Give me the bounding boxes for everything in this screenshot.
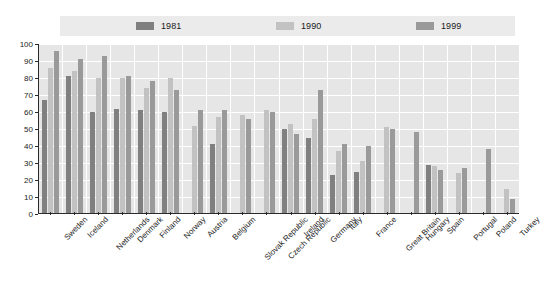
bar-group	[303, 44, 327, 214]
y-tick-mark	[35, 112, 38, 113]
bar-1999	[414, 132, 419, 214]
y-tick-label: 50	[24, 125, 33, 134]
x-tick-mark	[459, 212, 460, 215]
bar-group	[206, 44, 230, 214]
x-tick-label: Norway	[182, 215, 208, 241]
x-tick-mark	[122, 212, 123, 215]
x-tick-mark	[291, 212, 292, 215]
bar-group	[327, 44, 351, 214]
y-tick-mark	[35, 146, 38, 147]
bar-1981	[138, 110, 143, 214]
bar-1999	[486, 149, 491, 214]
x-tick-label: Turkey	[518, 215, 541, 238]
bar-group	[230, 44, 254, 214]
y-tick-mark	[35, 78, 38, 79]
x-tick-label: Czech Republic	[287, 215, 333, 261]
bar-1999	[126, 76, 131, 214]
x-axis-line	[38, 213, 519, 214]
bar-1990	[48, 68, 53, 214]
y-tick-mark	[35, 44, 38, 45]
legend-label-1981: 1981	[161, 21, 181, 31]
x-tick-label: Iceland	[86, 215, 111, 240]
bar-1999	[462, 168, 467, 214]
bar-1990	[168, 78, 173, 214]
x-tick-mark	[266, 212, 267, 215]
bar-1999	[222, 110, 227, 214]
x-tick-mark	[194, 212, 195, 215]
y-tick-label: 20	[24, 176, 33, 185]
bar-1990	[384, 127, 389, 214]
bar-group	[471, 44, 495, 214]
bar-group	[278, 44, 302, 214]
bar-1981	[354, 172, 359, 215]
x-tick-label: Austria	[206, 215, 230, 239]
bar-1999	[318, 90, 323, 214]
bar-1981	[282, 129, 287, 214]
bar-group	[495, 44, 519, 214]
bar-group	[351, 44, 375, 214]
bar-1990	[120, 78, 125, 214]
bar-group	[62, 44, 86, 214]
bar-1990	[96, 78, 101, 214]
bar-1990	[264, 110, 269, 214]
y-tick-mark	[35, 163, 38, 164]
bar-1990	[216, 117, 221, 214]
x-tick-mark	[242, 212, 243, 215]
y-tick-mark	[35, 197, 38, 198]
bar-1990	[288, 124, 293, 214]
y-tick-label: 40	[24, 142, 33, 151]
bar-1999	[366, 146, 371, 214]
legend-swatch-1981	[136, 22, 154, 30]
chart-legend: 1981 1990 1999	[60, 16, 515, 36]
x-tick-mark	[483, 212, 484, 215]
bar-1981	[42, 100, 47, 214]
bar-group	[254, 44, 278, 214]
bar-group	[158, 44, 182, 214]
y-tick-label: 0	[29, 210, 33, 219]
x-tick-mark	[387, 212, 388, 215]
x-tick-mark	[50, 212, 51, 215]
bar-group	[134, 44, 158, 214]
x-tick-label: Poland	[494, 215, 518, 239]
x-tick-mark	[146, 212, 147, 215]
bar-1999	[102, 56, 107, 214]
bar-1999	[54, 51, 59, 214]
bar-1981	[306, 138, 311, 215]
y-tick-label: 80	[24, 74, 33, 83]
x-tick-mark	[339, 212, 340, 215]
bar-1981	[162, 112, 167, 214]
legend-swatch-1999	[416, 22, 434, 30]
x-tick-label: Sweden	[62, 215, 89, 242]
bar-1999	[270, 112, 275, 214]
bar-group	[399, 44, 423, 214]
x-tick-label: Portugal	[472, 215, 499, 242]
bar-1990	[432, 166, 437, 214]
bar-group	[110, 44, 134, 214]
x-tick-mark	[411, 212, 412, 215]
y-tick-label: 10	[24, 193, 33, 202]
y-tick-mark	[35, 61, 38, 62]
x-tick-mark	[435, 212, 436, 215]
bar-1990	[504, 189, 509, 215]
x-tick-label: France	[374, 215, 398, 239]
x-tick-mark	[363, 212, 364, 215]
y-tick-label: 100	[20, 40, 33, 49]
bar-1999	[342, 144, 347, 214]
x-tick-mark	[218, 212, 219, 215]
bar-group	[86, 44, 110, 214]
bar-1990	[192, 126, 197, 214]
x-tick-mark	[315, 212, 316, 215]
bar-1981	[330, 175, 335, 214]
bar-1999	[510, 199, 515, 214]
bar-1990	[312, 119, 317, 214]
bar-group	[38, 44, 62, 214]
y-axis-line	[38, 44, 39, 214]
legend-label-1999: 1999	[441, 21, 461, 31]
y-tick-label: 30	[24, 159, 33, 168]
bar-1981	[114, 109, 119, 214]
x-tick-mark	[170, 212, 171, 215]
y-tick-mark	[35, 95, 38, 96]
bar-1999	[294, 134, 299, 214]
bar-1990	[456, 173, 461, 214]
